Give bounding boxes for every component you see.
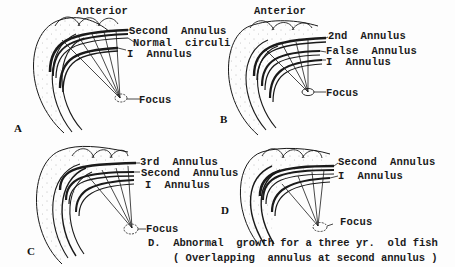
panel-b-label-false-annulus: False Annulus (326, 46, 417, 57)
panel-a-label-normal-circuli: Normal circuli (133, 38, 231, 49)
panel-c-focus-label: Focus (146, 224, 179, 235)
panel-c-label-second-annulus: Second Annulus (141, 168, 239, 179)
figure-caption-line-2: ( Overlapping annulus at second annulus … (173, 253, 438, 264)
panel-c-letter: C (27, 246, 35, 257)
panel-a-scale (34, 17, 141, 133)
panel-a-letter: A (14, 123, 22, 134)
figure-caption-line-1: D. Abnormal growth for a three yr. old f… (148, 238, 438, 249)
panel-d-letter: D (221, 205, 229, 216)
panel-d-label-i-annulus: I Annulus (338, 171, 403, 182)
panel-a-label-i-annulus: I Annulus (127, 49, 192, 60)
panel-d-scale (240, 148, 338, 244)
panel-a-label-second-annulus: Second Annulus (129, 26, 227, 37)
panel-b-label-2nd-annulus: 2nd Annulus (328, 31, 406, 42)
panel-b-header: Anterior (254, 6, 306, 17)
panel-c-scale (36, 146, 146, 264)
panel-b-scale (228, 21, 328, 135)
panel-d-label-second-annulus: Second Annulus (338, 157, 436, 168)
panel-c-label-i-annulus: I Annulus (145, 180, 210, 191)
fish-scale-figure: Anterior Second Annulus Normal circuli I… (0, 0, 455, 267)
panel-b-letter: B (220, 114, 227, 125)
panel-d-focus-label: Focus (340, 217, 373, 228)
panel-c-label-3rd-annulus: 3rd Annulus (140, 157, 218, 168)
panel-a-header: Anterior (76, 6, 128, 17)
panel-b-label-i-annulus: I Annulus (326, 57, 391, 68)
panel-b-focus-label: Focus (326, 88, 359, 99)
panel-a-focus-label: Focus (139, 95, 172, 106)
